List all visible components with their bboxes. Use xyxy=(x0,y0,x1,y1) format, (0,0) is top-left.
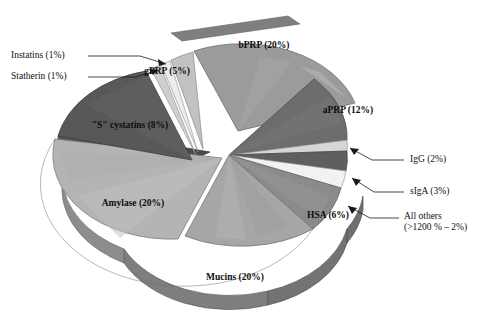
slice-label-hsa: HSA (6%) xyxy=(307,210,349,221)
callout-statherin: Statherin (1%) xyxy=(11,71,67,82)
callout-all-others-line2: (>1200 % – 2%) xyxy=(404,222,488,233)
slice-label-amylase: Amylase (20%) xyxy=(102,198,165,209)
slice-label-aprp: aPRP (12%) xyxy=(323,105,373,116)
slice-label-mucins: Mucins (20%) xyxy=(206,272,264,283)
leader-siga-arrow xyxy=(352,178,361,186)
callout-all-others-line1: All others xyxy=(404,211,488,222)
slice-label-cystatins: "S" cystatins (8%) xyxy=(92,120,169,131)
slice-label-bprp: bPRP (20%) xyxy=(239,40,290,51)
slice-side-bprp xyxy=(171,16,300,41)
pie-chart-figure: bPRP (20%) aPRP (12%) gPRP (5%) "S" cyst… xyxy=(0,0,489,320)
callout-all-others: All others (>1200 % – 2%) xyxy=(404,211,488,233)
callout-instatins: Instatins (1%) xyxy=(11,50,65,61)
callout-siga: sIgA (3%) xyxy=(410,186,449,197)
leader-instatins xyxy=(88,56,166,64)
slice-side-right-lower xyxy=(347,196,363,243)
callout-igg: IgG (2%) xyxy=(410,154,446,165)
slice-label-gprp: gPRP (5%) xyxy=(144,66,190,77)
leader-igg-arrow xyxy=(350,148,359,155)
